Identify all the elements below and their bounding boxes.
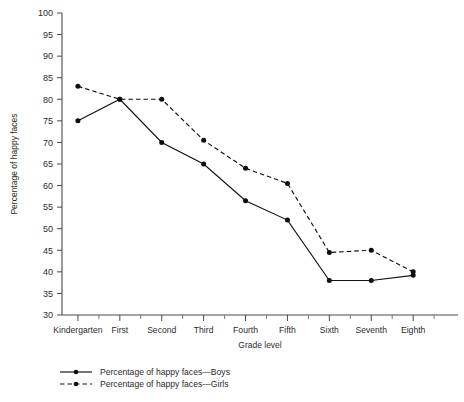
- y-tick-label: 60: [43, 181, 53, 191]
- y-tick-label: 45: [43, 246, 53, 256]
- data-point: [159, 97, 164, 102]
- x-category-label: Fourth: [233, 325, 258, 335]
- x-category-label: First: [111, 325, 128, 335]
- y-axis-title: Percentage of happy faces: [9, 113, 19, 214]
- y-tick-label: 35: [43, 289, 53, 299]
- data-point: [327, 250, 332, 255]
- data-point: [285, 218, 290, 223]
- legend-item: Percentage of happy faces—Boys: [60, 367, 230, 377]
- legend-label: Percentage of happy faces—Boys: [100, 367, 230, 377]
- x-category-label: Seventh: [355, 325, 387, 335]
- y-axis-group: 3035404550556065707580859095100 Percenta…: [9, 8, 62, 320]
- y-tick-label: 85: [43, 73, 53, 83]
- data-point: [369, 278, 374, 283]
- x-category-label: Sixth: [320, 325, 339, 335]
- x-category-label: Eighth: [401, 325, 426, 335]
- legend-marker-key: [74, 382, 79, 387]
- legend-label: Percentage of happy faces—Girls: [100, 379, 229, 389]
- y-tick-labels: 3035404550556065707580859095100: [38, 8, 53, 320]
- data-point: [75, 118, 80, 123]
- x-category-label: Fifth: [279, 325, 296, 335]
- series-girls: [75, 84, 415, 275]
- series-line: [78, 86, 413, 272]
- x-axis-group: KindergartenFirstSecondThirdFourthFifthS…: [53, 315, 458, 350]
- data-point: [159, 140, 164, 145]
- data-point: [369, 248, 374, 253]
- data-point: [327, 278, 332, 283]
- y-tick-label: 30: [43, 310, 53, 320]
- line-chart: 3035404550556065707580859095100 Percenta…: [0, 0, 464, 402]
- y-tick-label: 80: [43, 95, 53, 105]
- x-category-labels: KindergartenFirstSecondThirdFourthFifthS…: [53, 325, 425, 335]
- data-point: [201, 162, 206, 167]
- y-tick-label: 70: [43, 138, 53, 148]
- x-axis-title: Grade level: [238, 340, 282, 350]
- data-point: [117, 97, 122, 102]
- series-layer: [75, 84, 415, 283]
- y-tick-label: 95: [43, 30, 53, 40]
- chart-svg: 3035404550556065707580859095100 Percenta…: [0, 0, 464, 402]
- data-point: [411, 269, 416, 274]
- data-point: [75, 84, 80, 89]
- data-point: [243, 166, 248, 171]
- x-category-label: Kindergarten: [53, 325, 102, 335]
- y-tick-label: 65: [43, 159, 53, 169]
- series-boys: [75, 97, 415, 283]
- chart-legend: Percentage of happy faces—BoysPercentage…: [60, 367, 230, 389]
- x-category-label: Second: [147, 325, 176, 335]
- y-tick-label: 90: [43, 51, 53, 61]
- data-point: [285, 181, 290, 186]
- y-tick-label: 55: [43, 202, 53, 212]
- y-tick-label: 40: [43, 267, 53, 277]
- data-point: [201, 138, 206, 143]
- y-tick-label: 50: [43, 224, 53, 234]
- legend-marker-key: [74, 370, 79, 375]
- x-category-label: Third: [194, 325, 214, 335]
- y-tick-label: 100: [38, 8, 53, 18]
- y-tick-marks: [57, 13, 62, 315]
- series-line: [78, 99, 413, 280]
- legend-item: Percentage of happy faces—Girls: [60, 379, 229, 389]
- data-point: [243, 198, 248, 203]
- y-tick-label: 75: [43, 116, 53, 126]
- x-tick-marks: [78, 315, 434, 321]
